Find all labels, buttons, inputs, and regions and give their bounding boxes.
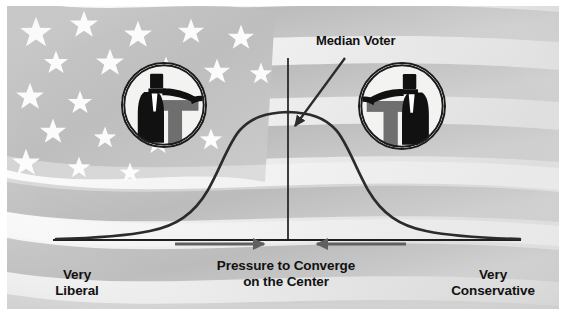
very-liberal-label: Very Liberal — [22, 267, 132, 299]
pressure-to-converge-label: Pressure to Converge on the Center — [186, 258, 386, 290]
very-conservative-label: Very Conservative — [430, 267, 556, 299]
right-candidate-medallion — [358, 62, 446, 150]
candidate-at-podium-icon — [123, 64, 205, 146]
candidate-at-podium-icon — [360, 64, 444, 148]
median-voter-pointer-arrow — [295, 58, 345, 126]
median-voter-label: Median Voter — [316, 33, 456, 48]
median-voter-theorem-figure: Median Voter Very Liberal Pressure to Co… — [0, 0, 567, 320]
left-candidate-medallion — [121, 62, 207, 148]
